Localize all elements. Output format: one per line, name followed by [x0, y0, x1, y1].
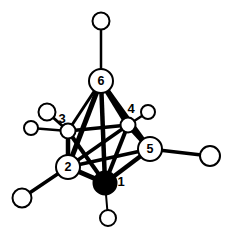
hydrogen-atom-h2	[13, 189, 32, 208]
figure-background	[0, 0, 228, 239]
hydrogen-atom-h6	[93, 13, 110, 30]
vertex-number-label-1: 1	[117, 174, 124, 189]
cluster-vertex-v1	[94, 172, 117, 195]
molecular-structure-figure: 123456	[0, 0, 228, 239]
hydrogen-atom-h5	[200, 146, 220, 166]
vertex-number-label-6: 6	[98, 74, 105, 88]
vertex-number-label-5: 5	[147, 142, 154, 156]
vertex-number-label-2: 2	[65, 160, 72, 174]
molecule-canvas: 123456	[0, 0, 228, 239]
hydrogen-atom-h3	[39, 104, 56, 121]
cluster-vertex-v3	[61, 124, 76, 139]
hydrogen-atom-h4	[141, 105, 155, 119]
vertex-number-label-3: 3	[58, 111, 65, 126]
cluster-vertex-v4	[121, 118, 136, 133]
vertex-number-label-4: 4	[127, 101, 135, 116]
hydrogen-atom-h1	[100, 210, 116, 226]
hydrogen-atom-h3b	[24, 121, 38, 135]
